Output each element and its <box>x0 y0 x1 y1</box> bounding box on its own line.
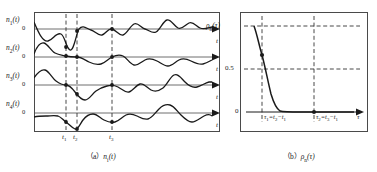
panel-a-caption-prefix: （a） <box>86 152 103 161</box>
signal-label-n3-suffix: (t) <box>13 71 20 80</box>
xtick-tau2-minus-sub: 1 <box>336 117 338 122</box>
panel-b-border <box>241 13 368 132</box>
panel-b-ytick-0: 0 <box>235 107 239 115</box>
panel-b-xtick-tau2: τ2=t3−t1 <box>316 113 338 122</box>
panel-a-caption-suffix: (t) <box>109 152 116 161</box>
zero-label-3: 0 <box>22 80 25 87</box>
panel-b-x-axis-label: τ <box>357 113 360 121</box>
signal-label-n3: n3(t) <box>6 71 20 82</box>
panel-a-t-label-3: t <box>216 93 218 101</box>
panel-a-caption: （a）ni(t) <box>86 150 116 163</box>
panel-a-border <box>35 13 220 132</box>
xtick-tau1-minus-sub: 1 <box>284 117 286 122</box>
zero-label-2: 0 <box>22 52 25 59</box>
zero-label-1: 0 <box>22 24 25 31</box>
signal-label-n2-suffix: (t) <box>13 43 20 52</box>
time-tick-t3: t3 <box>109 133 113 142</box>
panel-b-y-axis-label: ρn(τ) <box>206 21 220 32</box>
marker-tau1 <box>260 53 264 57</box>
figure-container: t t t t n1(t) 0 n2(t) 0 n3(t) 0 n4(t) 0 … <box>0 0 377 172</box>
signal-label-n4-suffix: (t) <box>13 99 20 108</box>
panel-b: ρn(τ) 0.5 0 τ1=t2−t1 τ2=t3−t1 τ <box>240 12 368 132</box>
time-tick-t1: t1 <box>62 133 66 142</box>
time-tick-t2: t2 <box>73 133 77 142</box>
panel-b-plot <box>240 12 368 132</box>
signal-label-n4: n4(t) <box>6 99 20 110</box>
panel-a-t-label-4: t <box>216 121 218 129</box>
zero-label-4: 0 <box>22 108 25 115</box>
panel-a-plot <box>34 12 220 132</box>
time-tick-t1-sub: 1 <box>64 137 67 142</box>
time-tick-t2-sub: 2 <box>75 137 78 142</box>
panel-a-t-label-2: t <box>216 65 218 73</box>
panel-a-t-label-1: t <box>216 37 218 45</box>
panel-a: t t t t <box>34 12 220 132</box>
signal-label-n1-suffix: (t) <box>13 15 20 24</box>
panel-b-ytick-0-5: 0.5 <box>225 64 234 72</box>
panel-b-y-axis-suffix: (τ) <box>212 21 220 30</box>
time-tick-t3-sub: 3 <box>111 137 114 142</box>
signal-label-n1: n1(t) <box>6 15 20 26</box>
panel-b-caption: （b）ρn(τ) <box>283 150 315 163</box>
signal-label-n2: n2(t) <box>6 43 20 54</box>
panel-b-xtick-tau1: τ1=t2−t1 <box>264 113 286 122</box>
panel-b-caption-prefix: （b） <box>283 152 301 161</box>
panel-b-caption-suffix: (τ) <box>307 152 315 161</box>
